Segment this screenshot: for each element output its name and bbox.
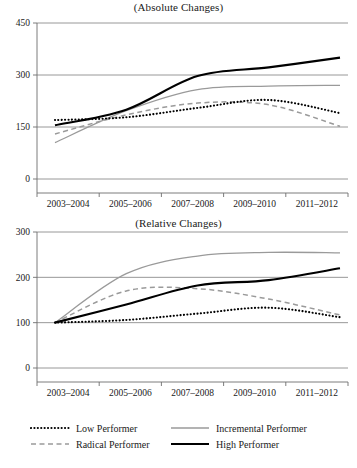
y-tick-label: 200 xyxy=(16,273,31,283)
y-tick-label: 0 xyxy=(25,174,30,184)
plot-area-absolute: 0150300450 2003–20042005–20062007–200820… xyxy=(0,0,357,212)
y-tick-label: 150 xyxy=(16,122,31,132)
legend-item-high-performer: High Performer xyxy=(160,439,357,450)
x-tick-labels-absolute: 2003–20042005–20062007–20082009–20102011… xyxy=(47,199,339,209)
y-tick-label: 0 xyxy=(25,363,30,373)
dotted-line-icon xyxy=(30,423,70,433)
series-line-radical-performer xyxy=(55,287,340,323)
series-group-relative xyxy=(55,252,340,322)
x-tick-label: 2005–2006 xyxy=(109,199,152,209)
chart-legend: Low Performer Incremental Performer Radi… xyxy=(0,420,357,464)
chart-panel-relative: (Relative Changes) 0100200300 2003–20042… xyxy=(0,216,357,416)
x-tick-label: 2003–2004 xyxy=(47,199,90,209)
legend-item-radical-performer: Radical Performer xyxy=(0,439,160,450)
y-tick-label: 300 xyxy=(16,227,31,237)
series-line-low-performer xyxy=(55,308,340,323)
legend-label-low-performer: Low Performer xyxy=(76,423,137,434)
dashed-line-icon xyxy=(30,439,70,449)
legend-label-radical-performer: Radical Performer xyxy=(76,439,150,450)
legend-label-incremental-performer: Incremental Performer xyxy=(216,423,307,434)
y-tick-labels-relative: 0100200300 xyxy=(16,227,31,373)
axes-relative xyxy=(33,232,348,386)
gridlines-absolute xyxy=(37,23,348,179)
legend-label-high-performer: High Performer xyxy=(216,439,279,450)
series-group-absolute xyxy=(55,58,340,143)
series-line-incremental-performer xyxy=(55,85,340,142)
solid-gray-line-icon xyxy=(170,423,210,433)
y-tick-label: 100 xyxy=(16,318,31,328)
legend-item-low-performer: Low Performer xyxy=(0,423,160,434)
x-tick-label: 2011–2012 xyxy=(296,388,339,398)
legend-item-incremental-performer: Incremental Performer xyxy=(160,423,357,434)
x-tick-labels-relative: 2003–20042005–20062007–20082009–20102011… xyxy=(47,388,339,398)
y-tick-labels-absolute: 0150300450 xyxy=(16,18,31,184)
y-tick-label: 450 xyxy=(16,18,31,28)
x-tick-label: 2007–2008 xyxy=(171,388,214,398)
plot-area-relative: 0100200300 2003–20042005–20062007–200820… xyxy=(0,216,357,416)
x-tick-label: 2009–2010 xyxy=(233,199,276,209)
x-tick-label: 2009–2010 xyxy=(233,388,276,398)
y-tick-label: 300 xyxy=(16,70,31,80)
figure-container: (Absolute Changes) 0150300450 2003–20042… xyxy=(0,0,357,468)
axes-absolute xyxy=(33,23,348,197)
solid-black-line-icon xyxy=(170,439,210,449)
x-tick-label: 2007–2008 xyxy=(171,199,214,209)
series-line-high-performer xyxy=(55,58,340,126)
x-tick-label: 2005–2006 xyxy=(109,388,152,398)
chart-panel-absolute: (Absolute Changes) 0150300450 2003–20042… xyxy=(0,0,357,212)
x-tick-label: 2003–2004 xyxy=(47,388,90,398)
x-tick-label: 2011–2012 xyxy=(296,199,339,209)
